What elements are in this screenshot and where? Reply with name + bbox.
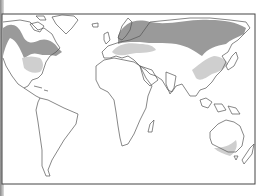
world-map [0, 0, 267, 196]
